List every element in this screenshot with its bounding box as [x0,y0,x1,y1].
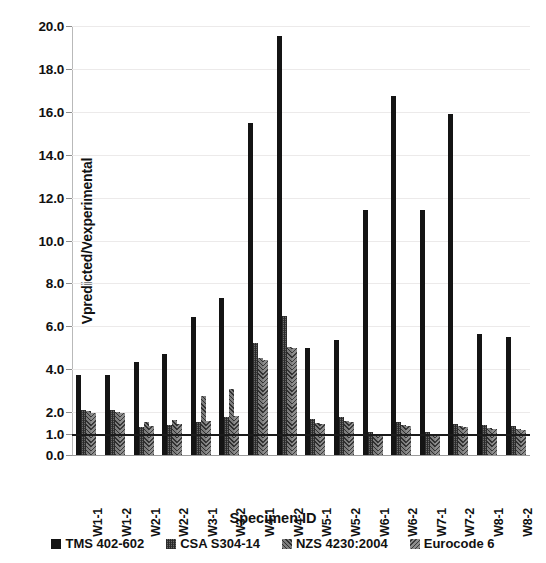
y-axis-tick-label: 1.0 [18,426,64,441]
plot-area [72,26,530,455]
y-axis-tick-label: 10.0 [18,233,64,248]
legend-item[interactable]: TMS 402-602 [51,536,144,551]
y-axis-tick-label: 4.0 [18,362,64,377]
y-axis-tick-label: 18.0 [18,61,64,76]
legend-swatch-icon [410,539,420,549]
legend-label: NZS 4230:2004 [296,536,388,551]
x-axis-tick-labels: W1-1W1-2W2-1W2-2W3-1W3-2W4-1W4-2W5-1W5-2… [72,458,530,510]
y-axis-tick-label: 12.0 [18,190,64,205]
y-axis-tick-label: 20.0 [18,19,64,34]
reference-line [72,434,530,436]
legend-label: Eurocode 6 [424,536,495,551]
y-axis-tick-label: 6.0 [18,319,64,334]
legend-swatch-icon [282,539,292,549]
chart-figure: 0.01.02.04.06.08.010.012.014.016.018.020… [0,0,546,563]
legend-swatch-icon [166,539,176,549]
legend-item[interactable]: NZS 4230:2004 [282,536,388,551]
x-axis-title: Specimen ID [0,510,546,526]
y-axis-tick-label: 8.0 [18,276,64,291]
legend-item[interactable]: Eurocode 6 [410,536,495,551]
reference-line-layer [72,26,530,455]
legend-swatch-icon [51,539,61,549]
legend-label: CSA S304-14 [180,536,260,551]
y-axis-tick-label: 16.0 [18,104,64,119]
y-axis-tick-label: 2.0 [18,405,64,420]
chart-legend: TMS 402-602CSA S304-14NZS 4230:2004Euroc… [0,536,546,551]
y-axis-tick-label: 0.0 [18,448,64,463]
y-axis-tick-label: 14.0 [18,147,64,162]
x-axis-line [72,455,530,456]
legend-item[interactable]: CSA S304-14 [166,536,260,551]
legend-label: TMS 402-602 [65,536,144,551]
